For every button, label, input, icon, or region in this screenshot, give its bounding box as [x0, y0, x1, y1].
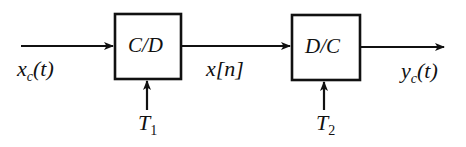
- input-signal-arg: (t): [33, 56, 54, 81]
- t1-base: T: [138, 110, 150, 135]
- middle-signal-base: x: [206, 56, 216, 81]
- t2-label: T2: [316, 110, 335, 139]
- middle-signal-label: x[n]: [206, 56, 244, 82]
- input-signal-base: x: [17, 56, 27, 81]
- t2-sub: 2: [328, 123, 335, 138]
- output-signal-arg: (t): [417, 58, 438, 83]
- t1-sub: 1: [150, 123, 157, 138]
- t1-label: T1: [138, 110, 157, 139]
- input-signal-label: xc(t): [17, 56, 54, 85]
- output-signal-base: y: [401, 58, 411, 83]
- t2-base: T: [316, 110, 328, 135]
- cd-block-label: C/D: [128, 33, 163, 58]
- output-signal-label: yc(t): [401, 58, 438, 87]
- block-diagram: C/D D/C xc(t) x[n] yc(t) T1 T2: [0, 0, 466, 147]
- dc-block-label: D/C: [305, 34, 340, 59]
- middle-signal-arg: [n]: [216, 56, 244, 81]
